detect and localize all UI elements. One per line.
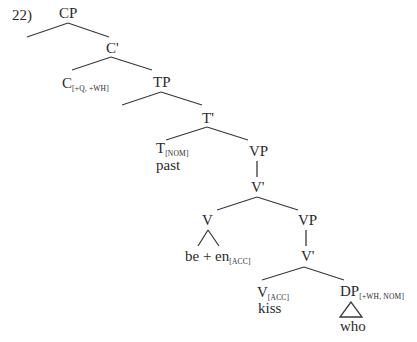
node-c-head: C[+Q, +WH] bbox=[62, 76, 109, 93]
node-dp-label: DP bbox=[340, 283, 359, 299]
syntax-tree: 22) CP C' C[+Q, +WH] TP T' T[NOM] past V… bbox=[0, 0, 417, 342]
branch-tbar-t bbox=[166, 127, 207, 140]
branch-tp-spec bbox=[122, 92, 161, 105]
word-past: past bbox=[156, 158, 180, 173]
node-tp: TP bbox=[153, 75, 171, 90]
node-dp-features: [+WH, NOM] bbox=[359, 292, 404, 301]
node-v-aux: V bbox=[202, 213, 213, 228]
word-be-en-features: [ACC] bbox=[229, 257, 250, 266]
word-who: who bbox=[340, 319, 366, 334]
node-cp: CP bbox=[59, 6, 77, 21]
node-t-label: T bbox=[156, 140, 165, 156]
node-dp: DP[+WH, NOM] bbox=[340, 284, 404, 301]
dp-triangle bbox=[340, 302, 362, 317]
node-t-head: T[NOM] bbox=[156, 141, 189, 158]
branch-v-left bbox=[198, 230, 208, 246]
node-v-bar-1: V' bbox=[251, 180, 265, 195]
branch-cp-spec bbox=[27, 23, 68, 37]
node-c-label: C bbox=[62, 75, 72, 91]
node-c-features: [+Q, +WH] bbox=[72, 84, 109, 93]
branch-vbar2-dp bbox=[304, 267, 344, 280]
branch-tbar-vp bbox=[207, 127, 248, 140]
example-number: 22) bbox=[12, 8, 32, 23]
node-v-bar-2: V' bbox=[301, 249, 315, 264]
branch-vbar-vp bbox=[257, 197, 298, 210]
node-vp-1: VP bbox=[249, 144, 268, 159]
branch-vbar-v bbox=[217, 197, 257, 210]
node-v-label: V bbox=[257, 284, 268, 300]
branch-v-right bbox=[208, 230, 219, 246]
branch-vbar2-v bbox=[262, 267, 304, 280]
branch-cbar-tp bbox=[111, 57, 152, 70]
word-kiss: kiss bbox=[258, 301, 281, 316]
branch-tp-tbar bbox=[161, 92, 202, 105]
word-be-en: be + en[ACC] bbox=[185, 249, 251, 266]
node-vp-2: VP bbox=[298, 213, 317, 228]
node-c-bar: C' bbox=[106, 41, 119, 56]
branch-cbar-c bbox=[72, 57, 111, 70]
node-t-bar: T' bbox=[202, 111, 214, 126]
branch-cp-cbar bbox=[68, 23, 109, 37]
word-be-en-text: be + en bbox=[185, 248, 229, 264]
